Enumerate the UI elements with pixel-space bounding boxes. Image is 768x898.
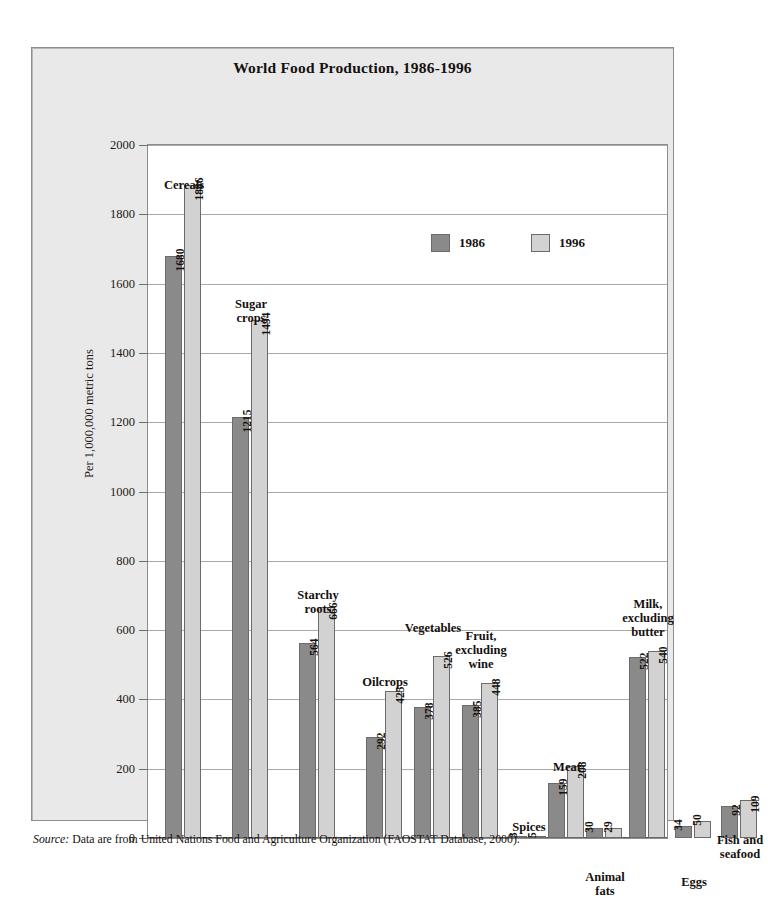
chart-legend: 1986 1996: [431, 234, 585, 252]
bar-1996[interactable]: 1886: [184, 185, 201, 838]
y-axis-tick: [139, 699, 148, 700]
bar-value-label: 29: [602, 821, 614, 833]
y-axis-tick: [139, 214, 148, 215]
bar-1986[interactable]: 34: [675, 826, 692, 838]
bar-1996[interactable]: 526: [433, 656, 450, 838]
y-axis-tick-label: 1000: [110, 484, 135, 499]
bar-group: 564666: [299, 145, 337, 838]
y-axis-tick-label: 1600: [110, 276, 135, 291]
bar-value-label: 50: [691, 814, 703, 826]
bar-1986[interactable]: 564: [299, 643, 316, 838]
bar-1996[interactable]: 666: [318, 607, 335, 838]
y-axis-tick-label: 1800: [110, 207, 135, 222]
plot-area: 2000180016001400120010008006004002000168…: [147, 144, 668, 839]
bar-value-label: 109: [749, 796, 761, 813]
y-axis-tick-label: 800: [116, 553, 135, 568]
bar-value-label: 540: [657, 646, 669, 663]
legend-swatch-1996: [531, 234, 550, 252]
y-axis-tick-label: 1200: [110, 415, 135, 430]
legend-item-1996: 1996: [531, 234, 585, 252]
y-axis-tick: [139, 145, 148, 146]
bar-group: 522540: [629, 145, 667, 838]
bar-1986[interactable]: 385: [462, 705, 479, 838]
y-axis-tick: [139, 353, 148, 354]
y-axis-tick: [139, 630, 148, 631]
bar-1996[interactable]: 448: [481, 683, 498, 838]
bar-1986[interactable]: 159: [548, 783, 565, 838]
bar-group: 92109: [721, 145, 759, 838]
bar-group: 3450: [675, 145, 713, 838]
y-axis-tick: [139, 422, 148, 423]
bar-1986[interactable]: 1680: [165, 256, 182, 838]
source-text: Data are from United Nations Food and Ag…: [69, 832, 520, 846]
bar-value-label: 30: [583, 821, 595, 833]
chart-title: World Food Production, 1986-1996: [32, 59, 673, 77]
legend-item-1986: 1986: [431, 234, 485, 252]
source-note: Source: Data are from United Nations Foo…: [33, 832, 673, 847]
y-axis-tick: [139, 492, 148, 493]
bar-1986[interactable]: 522: [629, 657, 646, 838]
y-axis-tick: [139, 561, 148, 562]
bar-group: 12151494: [232, 145, 270, 838]
bar-group: 16801886: [165, 145, 203, 838]
legend-swatch-1986: [431, 234, 450, 252]
bar-1986[interactable]: 1215: [232, 417, 249, 838]
category-label: Animal fats: [562, 870, 648, 898]
category-label: Cereals: [141, 178, 227, 192]
bar-1996[interactable]: 1494: [251, 320, 268, 838]
bar-group: 292425: [366, 145, 404, 838]
bar-1986[interactable]: 292: [366, 737, 383, 838]
y-axis-tick-label: 400: [116, 692, 135, 707]
category-label: Eggs: [651, 875, 737, 889]
legend-label-1986: 1986: [459, 235, 485, 251]
bar-1996[interactable]: 208: [567, 766, 584, 838]
category-label: Fish and seafood: [697, 833, 768, 861]
y-axis-title: Per 1,000,000 metric tons: [82, 349, 97, 478]
y-axis-tick-label: 2000: [110, 138, 135, 153]
y-axis-tick-label: 1400: [110, 345, 135, 360]
category-label: Sugar crops: [208, 297, 294, 325]
chart-panel: World Food Production, 1986-1996 2000180…: [31, 47, 674, 821]
bar-group: 3029: [586, 145, 624, 838]
bar-value-label: 448: [490, 678, 502, 695]
bar-value-label: 34: [672, 819, 684, 831]
bar-1986[interactable]: 378: [414, 707, 431, 838]
y-axis-tick: [139, 284, 148, 285]
legend-label-1996: 1996: [559, 235, 585, 251]
category-label: Starchy roots: [275, 588, 361, 616]
bar-1996[interactable]: 540: [648, 651, 665, 838]
source-prefix: Source:: [33, 832, 69, 846]
bar-1996[interactable]: 425: [385, 691, 402, 838]
y-axis-tick: [139, 769, 148, 770]
y-axis-tick-label: 600: [116, 623, 135, 638]
y-axis-tick-label: 200: [116, 761, 135, 776]
